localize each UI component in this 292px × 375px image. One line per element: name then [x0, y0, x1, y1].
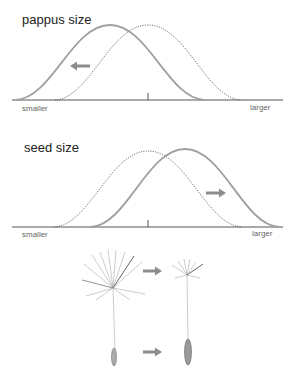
pappus-distribution-chart: [12, 25, 283, 100]
pappus-arrow-icon: [143, 267, 162, 276]
seed-arrow-icon: [143, 348, 162, 357]
seed-distribution-chart: [12, 149, 283, 227]
pappus-shifted-curve: [16, 25, 204, 100]
pappus-original-curve: [55, 25, 241, 100]
left-arrow-icon: [70, 62, 90, 71]
seed-shifted-curve: [91, 149, 279, 227]
right-arrow-icon: [206, 189, 226, 198]
seed-original-curve: [54, 151, 242, 227]
diagram-graphics: [0, 0, 292, 375]
dandelion-illustration: [82, 250, 203, 366]
small-pappus-seed-icon: [172, 259, 203, 365]
large-pappus-seed-icon: [82, 250, 145, 366]
